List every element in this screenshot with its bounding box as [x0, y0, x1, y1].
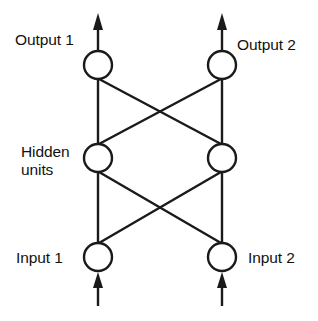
input-arrows	[93, 272, 227, 306]
label-hidden-units: Hidden units	[21, 143, 93, 179]
edges-input-to-hidden	[98, 172, 222, 243]
label-hidden-units-line-1: Hidden	[21, 143, 93, 161]
node-output-1[interactable]	[84, 51, 112, 79]
input-arrow-2-head	[217, 272, 227, 288]
node-hidden-2[interactable]	[208, 144, 236, 172]
output-arrows	[93, 13, 227, 52]
input-layer-nodes	[84, 243, 236, 271]
node-input-2[interactable]	[208, 243, 236, 271]
output-layer-nodes	[84, 51, 236, 79]
input-arrow-1-head	[93, 272, 103, 288]
label-input-1: Input 1	[16, 249, 63, 267]
output-arrow-1-head	[93, 13, 103, 30]
node-input-1[interactable]	[84, 243, 112, 271]
node-output-2[interactable]	[208, 51, 236, 79]
neural-network-diagram: Output 1 Output 2 Hidden units Input 1 I…	[0, 0, 318, 321]
edges-hidden-to-output	[98, 79, 222, 144]
label-output-2: Output 2	[237, 36, 296, 54]
output-arrow-2-head	[217, 13, 227, 30]
label-hidden-units-line-2: units	[21, 161, 93, 179]
hidden-layer-nodes	[84, 144, 236, 172]
label-input-2: Input 2	[248, 249, 295, 267]
label-output-1: Output 1	[15, 31, 74, 49]
